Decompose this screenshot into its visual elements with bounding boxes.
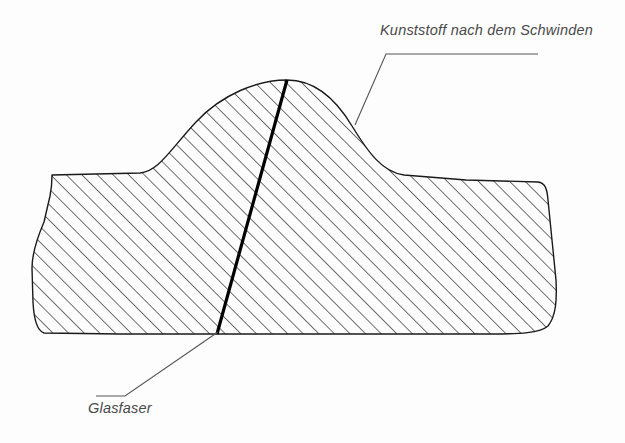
leader-line-kunststoff [355,54,538,125]
cross-section-diagram: Kunststoff nach dem Schwinden Glasfaser [0,0,625,443]
plastic-section-hatch-fill [32,80,556,334]
leader-line-glasfaser [96,332,218,396]
label-glasfaser: Glasfaser [88,400,152,416]
diagram-canvas [0,0,625,443]
label-kunststoff-nach-dem-schwinden: Kunststoff nach dem Schwinden [380,22,593,38]
